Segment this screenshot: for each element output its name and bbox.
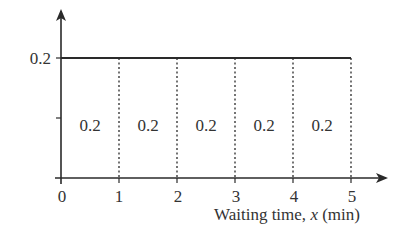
x-axis-title-prefix: Waiting time,	[214, 205, 310, 224]
x-axis-title: Waiting time, x (min)	[214, 205, 360, 225]
bar-label-2: 0.2	[137, 117, 158, 134]
bar-label-4: 0.2	[253, 117, 274, 134]
bar-label-1: 0.2	[79, 117, 100, 134]
x-tick-label-5: 5	[348, 188, 357, 205]
x-tick-label-0: 0	[58, 188, 67, 205]
x-axis-title-suffix: (min)	[318, 205, 360, 224]
x-tick-label-1: 1	[115, 188, 124, 205]
y-tick-label-0.2: 0.2	[30, 50, 51, 67]
x-tick-label-2: 2	[174, 188, 183, 205]
x-tick-label-4: 4	[290, 188, 299, 205]
bar-label-5: 0.2	[311, 117, 332, 134]
bar-label-3: 0.2	[195, 117, 216, 134]
x-tick-label-3: 3	[232, 188, 241, 205]
x-axis-title-variable: x	[310, 205, 318, 224]
